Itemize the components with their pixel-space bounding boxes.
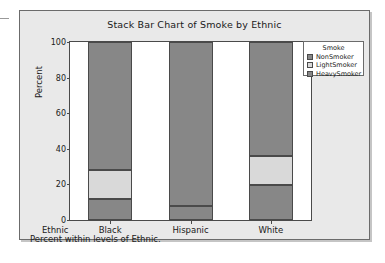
bar-stack	[169, 42, 213, 220]
bar-segment-lightsmoker[interactable]	[249, 156, 293, 185]
y-axis-tick-label: 0	[48, 216, 66, 225]
legend-swatch-nonsmoker	[307, 54, 313, 60]
x-axis-tick-label: White	[258, 225, 283, 235]
legend-label-lightsmoker: LightSmoker	[316, 61, 357, 69]
legend-title: Smoke	[307, 44, 360, 52]
bar-segment-nonsmoker[interactable]	[169, 42, 213, 206]
bar-segment-heavysmoker[interactable]	[88, 199, 132, 220]
bar-segment-nonsmoker[interactable]	[88, 42, 132, 170]
chart-title: Stack Bar Chart of Smoke by Ethnic	[20, 19, 369, 30]
y-axis-tick-label: 20	[48, 180, 66, 189]
y-axis-tick-mark	[67, 149, 70, 150]
legend-item-nonsmoker[interactable]: NonSmoker	[307, 53, 360, 61]
bar-segment-heavysmoker[interactable]	[169, 206, 213, 220]
plot-inner: Percent020406080100	[70, 42, 311, 220]
chart-footnote: Percent within levels of Ethnic.	[30, 234, 161, 244]
x-axis-tick-label: Hispanic	[172, 225, 208, 235]
legend-item-heavysmoker[interactable]: HeavySmoker	[307, 70, 360, 78]
y-axis-tick-mark	[67, 184, 70, 185]
y-axis-tick-mark	[67, 220, 70, 221]
chart-panel: Stack Bar Chart of Smoke by Ethnic Perce…	[19, 10, 370, 240]
y-axis-tick-label: 40	[48, 144, 66, 153]
bar-stack	[88, 42, 132, 220]
x-axis-tick-label: Black	[99, 225, 122, 235]
y-axis-tick-mark	[67, 78, 70, 79]
legend-box: Smoke NonSmoker LightSmoker HeavySmoker	[303, 41, 364, 76]
bar-stack	[249, 42, 293, 220]
y-axis-tick-mark	[67, 113, 70, 114]
y-axis-tick-label: 100	[48, 38, 66, 47]
x-axis-name: Ethnic	[42, 225, 69, 235]
y-axis-tick-mark	[67, 42, 70, 43]
bar-group[interactable]	[88, 42, 132, 220]
bar-segment-nonsmoker[interactable]	[249, 42, 293, 156]
edge-tick-mark	[0, 18, 9, 19]
bar-group[interactable]	[249, 42, 293, 220]
bar-segment-heavysmoker[interactable]	[249, 185, 293, 220]
plot-area: Percent020406080100	[69, 41, 312, 221]
bar-segment-lightsmoker[interactable]	[88, 170, 132, 198]
legend-swatch-lightsmoker	[307, 62, 313, 68]
y-axis-title: Percent	[34, 66, 44, 98]
bar-group[interactable]	[169, 42, 213, 220]
legend-swatch-heavysmoker	[307, 71, 313, 77]
legend-label-nonsmoker: NonSmoker	[316, 53, 354, 61]
x-axis-tick-mark	[191, 220, 192, 224]
y-axis-tick-label: 60	[48, 109, 66, 118]
legend-item-lightsmoker[interactable]: LightSmoker	[307, 61, 360, 69]
legend-label-heavysmoker: HeavySmoker	[316, 70, 361, 78]
x-axis-tick-mark	[110, 220, 111, 224]
x-axis-tick-mark	[271, 220, 272, 224]
y-axis-tick-label: 80	[48, 73, 66, 82]
